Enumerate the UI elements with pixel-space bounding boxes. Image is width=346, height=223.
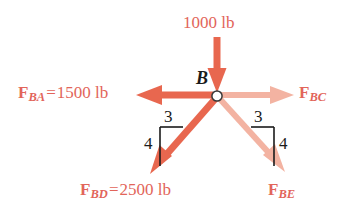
force-be-subscript: BE: [278, 187, 295, 201]
force-ba-subscript: BA: [28, 90, 45, 104]
force-ba-equals: =: [45, 83, 57, 102]
force-bd-label: FBD=2500 lb: [80, 181, 171, 200]
slope-left-run-label: 3: [164, 108, 173, 125]
force-bd-subscript: BD: [90, 187, 108, 201]
force-ba-symbol: F: [18, 83, 28, 102]
force-ba-label: FBA=1500 lb: [18, 84, 108, 103]
force-bc-symbol: F: [299, 83, 309, 102]
slope-left-rise-label: 4: [144, 135, 153, 152]
force-bd-symbol: F: [80, 180, 90, 199]
force-ba-arrow: [136, 85, 213, 105]
free-body-diagram: 1000 lb FBA=1500 lb FBC FBD=2500 lb FBE …: [0, 0, 346, 223]
applied-load-label: 1000 lb: [183, 14, 234, 31]
force-bc-subscript: BC: [309, 90, 326, 104]
force-bd-value: 2500 lb: [120, 180, 171, 199]
force-be-label: FBE: [268, 181, 295, 200]
applied-load-arrow: [208, 37, 227, 93]
force-ba-value: 1500 lb: [57, 83, 108, 102]
slope-right-rise-label: 4: [279, 135, 288, 152]
force-be-arrow: [219, 98, 285, 172]
force-bd-equals: =: [108, 180, 120, 199]
force-bc-arrow: [221, 86, 294, 104]
slope-right-run-label: 3: [254, 108, 263, 125]
joint-node: [212, 91, 222, 101]
joint-label-b: B: [196, 69, 208, 87]
force-be-symbol: F: [268, 180, 278, 199]
force-bc-label: FBC: [299, 84, 326, 103]
